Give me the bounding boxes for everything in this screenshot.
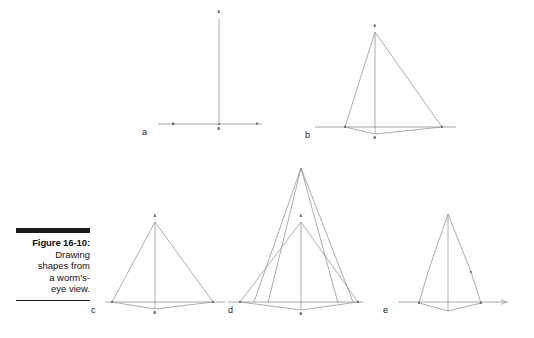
panel-e-arrow-right [501, 300, 506, 305]
panel-c-label-base: B [154, 312, 156, 315]
panel-e-right-lower-edge [471, 272, 481, 303]
panel-b-corner-left [344, 126, 346, 128]
panel-d-art [228, 168, 363, 310]
caption-line-2: shapes from [16, 260, 90, 272]
panel-b-label-base: B [374, 137, 376, 140]
panel-b-label-apex: A [374, 25, 376, 28]
panel-letter-d: d [228, 306, 233, 315]
panel-d-inner-right-edge [301, 222, 358, 302]
panel-c-corner-left [111, 301, 113, 303]
panel-e-right-upper-edge [448, 214, 471, 272]
panel-c-base-left [112, 302, 155, 309]
panel-letter-e: e [383, 306, 388, 315]
panel-d-label-base: B [300, 313, 302, 316]
panel-c-left-edge [112, 222, 155, 302]
panel-a-vanishing-point-right [256, 123, 258, 125]
panel-d-base-left [240, 302, 301, 310]
panel-e-art [398, 214, 508, 311]
panel-b-base-left [345, 127, 375, 134]
panel-e-corner-right [480, 302, 482, 304]
caption-rule-bottom [16, 300, 90, 302]
panel-a-label-apex: A [218, 11, 220, 14]
panel-letter-c: c [91, 306, 96, 315]
panel-c-base-right [155, 302, 213, 309]
panel-a-vanishing-point-left [172, 123, 174, 125]
caption-rule-top [16, 228, 90, 233]
panel-d-outer-left-edge [254, 168, 301, 302]
panel-e-corner-left [418, 302, 420, 304]
panel-b-left-edge [345, 32, 375, 127]
panel-d-corner-left [239, 301, 241, 303]
figure-caption: Figure 16-10: Drawing shapes from a worm… [16, 228, 90, 301]
panel-letter-b: b [305, 131, 310, 140]
figure-page: A B A B A B A B a b c d e Figure 16-10: … [0, 0, 534, 338]
caption-line-3: a worm's- [16, 272, 90, 284]
panel-e-left-upper-edge [428, 214, 448, 272]
panel-c-label-apex: A [154, 215, 156, 218]
panel-e-midpoint-right [470, 271, 472, 273]
panel-b-base-right [375, 127, 442, 134]
panel-d-inner-left-edge [240, 222, 301, 302]
panel-c-corner-right [212, 301, 214, 303]
panel-e-base-right [448, 303, 481, 311]
caption-line-4: eye view. [16, 283, 90, 295]
panel-d-outer-right-edge-b [301, 168, 338, 303]
caption-title: Figure 16-10: [16, 237, 90, 249]
panel-letter-a: a [142, 128, 147, 137]
panel-e-base-left [419, 303, 448, 311]
panel-b-corner-right [441, 126, 443, 128]
panel-a-art [158, 18, 262, 125]
panel-d-base-right [301, 302, 358, 310]
panel-d-outer-left-edge-b [268, 168, 301, 303]
panel-b-right-edge [375, 32, 442, 127]
panel-a-base-point [218, 123, 220, 125]
caption-line-1: Drawing [16, 249, 90, 261]
panel-c-right-edge [155, 222, 213, 302]
panel-d-outer-right-edge [301, 168, 353, 302]
panel-c-art [105, 222, 225, 309]
panel-e-left-lower-edge [419, 272, 428, 303]
panel-a-label-base: B [218, 128, 220, 131]
panel-d-label-apex: A [300, 215, 302, 218]
panel-b-art [315, 32, 456, 134]
panel-d-corner-right [357, 301, 359, 303]
